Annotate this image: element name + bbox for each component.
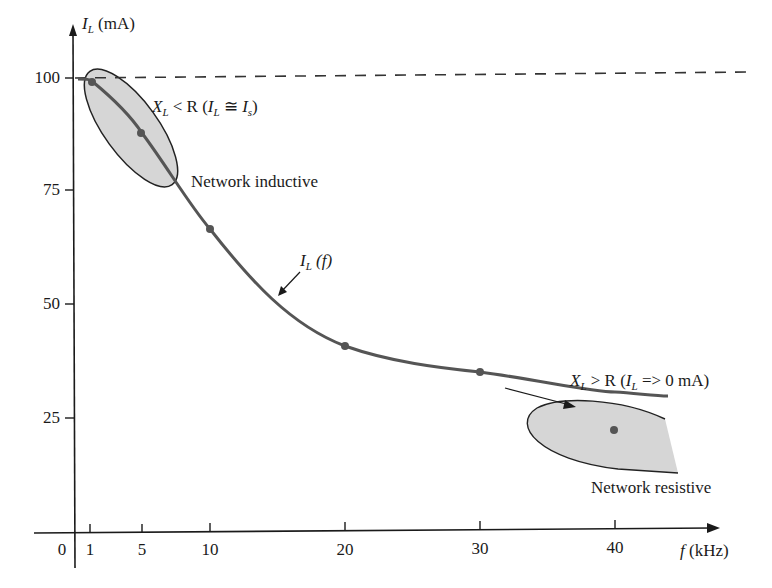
il-curve xyxy=(78,79,668,396)
curve-label: IL (f) xyxy=(300,251,332,272)
chart-canvas xyxy=(0,0,772,588)
network-resistive-region xyxy=(527,401,678,473)
y-tick-100: 100 xyxy=(20,68,60,88)
x-tick-1: 1 xyxy=(75,540,105,560)
high-frequency-condition: XL > R (IL => 0 mA) xyxy=(570,371,709,392)
network-resistive-label: Network resistive xyxy=(591,478,711,498)
x-tick-40: 40 xyxy=(600,538,630,558)
x-tick-30: 30 xyxy=(465,539,495,559)
y-tick-75: 75 xyxy=(20,180,60,200)
x-axis xyxy=(34,520,720,533)
y-axis xyxy=(65,24,77,568)
x-tick-10: 10 xyxy=(195,540,225,560)
x-axis-label: f (kHz) xyxy=(680,541,729,561)
reference-line-100ma xyxy=(75,72,752,78)
y-tick-25: 25 xyxy=(20,408,60,428)
x-axis-arrow-icon xyxy=(707,523,720,533)
y-axis-arrow-icon xyxy=(69,24,77,36)
x-tick-20: 20 xyxy=(330,540,360,560)
y-axis-label: IL (mA) xyxy=(82,14,135,35)
curve-label-arrow xyxy=(278,272,300,296)
x-tick-0: 0 xyxy=(47,540,77,560)
x-tick-5: 5 xyxy=(127,540,157,560)
low-frequency-condition: XL < R (IL ≅ Is) xyxy=(152,96,258,118)
y-tick-50: 50 xyxy=(20,294,60,314)
network-inductive-label: Network inductive xyxy=(191,172,318,192)
